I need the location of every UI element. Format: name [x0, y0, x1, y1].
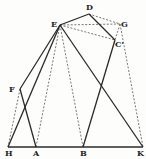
point-label-F: F	[9, 84, 15, 94]
segment-EK	[60, 25, 143, 147]
point-label-H: H	[5, 148, 13, 158]
segment-ED	[60, 14, 89, 25]
point-label-B: B	[80, 148, 87, 158]
diagram-canvas: DEGC'FHABK	[0, 0, 146, 159]
dashed-construction-lines	[8, 14, 143, 147]
point-label-G: G	[121, 19, 128, 29]
segment-FA	[20, 89, 36, 147]
point-label-E: E	[51, 19, 57, 29]
segment-EB	[60, 25, 83, 147]
segment-EH	[8, 25, 60, 147]
geometry-diagram: DEGC'FHABK	[0, 0, 146, 159]
segment-FH	[8, 89, 20, 147]
segment-GC	[115, 24, 120, 40]
point-label-A: A	[32, 148, 40, 158]
segment-CB	[83, 40, 115, 147]
solid-lines	[8, 14, 143, 147]
point-label-C: C'	[115, 39, 124, 49]
point-label-D: D	[86, 2, 93, 12]
segment-EG	[60, 24, 120, 25]
point-label-K: K	[137, 148, 145, 158]
